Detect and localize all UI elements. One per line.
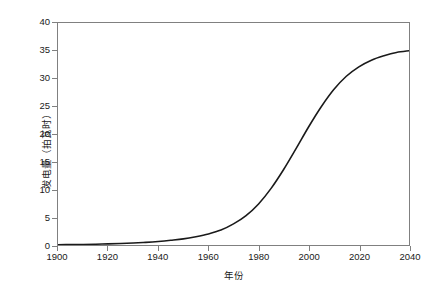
y-tick-label: 20 xyxy=(39,129,50,139)
y-tick-label: 30 xyxy=(39,73,50,83)
y-tick-mark xyxy=(52,106,57,107)
x-tick-label: 2000 xyxy=(299,251,320,262)
x-tick-mark xyxy=(410,246,411,251)
y-tick-mark xyxy=(52,50,57,51)
chart-figure: 发电量（拍瓦时） 0510152025303540 19001920194019… xyxy=(0,0,435,298)
x-tick-mark xyxy=(107,246,108,251)
y-tick-mark xyxy=(52,134,57,135)
x-axis-title: 年份 xyxy=(57,268,410,282)
y-tick-label: 40 xyxy=(39,17,50,27)
y-tick-mark xyxy=(52,190,57,191)
x-tick-mark xyxy=(259,246,260,251)
x-tick-mark xyxy=(57,246,58,251)
y-tick-mark xyxy=(52,78,57,79)
y-tick-label: 5 xyxy=(45,213,50,223)
y-tick-mark xyxy=(52,218,57,219)
y-tick-label: 25 xyxy=(39,101,50,111)
x-tick-label: 2040 xyxy=(399,251,420,262)
x-tick-label: 1940 xyxy=(147,251,168,262)
plot-area xyxy=(57,22,410,246)
x-tick-label: 1920 xyxy=(97,251,118,262)
x-tick-mark xyxy=(309,246,310,251)
x-tick-mark xyxy=(360,246,361,251)
x-tick-label: 1900 xyxy=(46,251,67,262)
x-tick-label: 2020 xyxy=(349,251,370,262)
y-tick-mark xyxy=(52,22,57,23)
y-tick-label: 10 xyxy=(39,185,50,195)
y-tick-label: 15 xyxy=(39,157,50,167)
y-axis-tick-labels: 0510152025303540 xyxy=(0,0,50,298)
line-series-path xyxy=(58,51,409,245)
line-series-svg xyxy=(58,23,409,245)
y-tick-label: 0 xyxy=(45,241,50,251)
x-tick-label: 1980 xyxy=(248,251,269,262)
x-tick-label: 1960 xyxy=(198,251,219,262)
y-tick-mark xyxy=(52,162,57,163)
x-tick-mark xyxy=(208,246,209,251)
y-tick-label: 35 xyxy=(39,45,50,55)
x-tick-mark xyxy=(158,246,159,251)
